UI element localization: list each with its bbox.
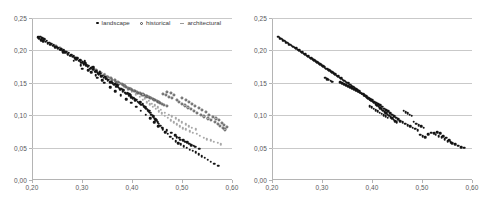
data-point [90,71,93,74]
y-axis-tick-label: 0,20 [14,47,27,54]
data-point [171,137,174,140]
y-axis-tick-label: 0,05 [254,144,267,151]
y-axis-tick-label: 0,20 [254,47,267,54]
left-plot-area: 0,000,050,100,150,200,250,200,300,400,50… [32,18,232,180]
data-point [81,67,84,70]
data-point [410,115,413,118]
data-point [198,148,201,151]
y-axis-tick-label: 0,25 [254,15,267,22]
data-point [147,100,149,102]
data-point [139,109,142,112]
y-axis-tick [29,18,32,19]
x-axis-tick [422,180,423,183]
data-point [187,125,189,127]
y-axis-tick-label: 0,10 [14,112,27,119]
data-point [184,141,187,144]
data-point [125,98,128,101]
data-point [161,126,164,129]
data-point [98,71,101,74]
y-axis-tick [269,50,272,51]
data-point [148,109,151,112]
x-axis-tick [322,180,323,183]
x-axis-tick-label: 0,50 [175,184,188,191]
y-axis-tick [29,115,32,116]
gridline [272,115,472,116]
data-point [152,115,155,118]
right-chart-panel: average quality aggregate index 0,000,05… [240,0,480,204]
y-axis-tick [269,148,272,149]
gridline [32,148,232,149]
x-axis-tick [132,180,133,183]
data-point [195,133,197,135]
data-point [216,142,218,144]
data-point [209,139,211,141]
data-point [194,128,196,130]
data-point [386,116,389,119]
data-point [157,125,160,128]
data-point [213,163,216,166]
y-axis-tick-label: 0,00 [254,177,267,184]
data-point [223,128,226,131]
data-point [424,136,427,139]
y-axis-tick [269,83,272,84]
x-axis-tick-label: 0,30 [75,184,88,191]
data-point [135,106,138,109]
data-point [114,90,117,93]
data-point [192,144,195,147]
x-axis-tick-label: 0,40 [125,184,138,191]
data-point [62,51,65,54]
data-point [166,117,168,119]
scatter-plot-figure: landscape historical architectural 0,000… [0,0,481,204]
data-point [160,112,162,114]
data-point [331,80,334,83]
x-axis-tick-label: 0,50 [415,184,428,191]
data-point [181,127,183,129]
data-point [209,161,212,164]
data-point [170,97,173,100]
data-point [217,164,220,167]
x-axis-tick-label: 0,20 [265,184,278,191]
data-point [103,82,106,85]
gridline [272,18,472,19]
data-point [72,60,75,63]
x-axis-tick [32,180,33,183]
data-point [416,129,419,132]
data-point [188,130,190,132]
x-axis-tick-label: 0,30 [315,184,328,191]
x-axis-tick [272,180,273,183]
data-point [149,117,152,120]
data-point [395,121,398,124]
data-point [101,79,104,82]
data-point [96,76,99,79]
x-axis-tick [472,180,473,183]
y-axis-tick [269,18,272,19]
data-point [185,128,187,130]
x-axis-tick-label: 0,40 [365,184,378,191]
data-point [160,109,162,111]
y-axis-tick-label: 0,25 [14,15,27,22]
x-axis-tick [182,180,183,183]
data-point [192,131,194,133]
data-point [206,138,208,140]
data-point [164,111,166,113]
x-axis-tick [232,180,233,183]
data-point [181,121,183,123]
data-point [157,106,159,108]
data-point [94,74,97,77]
y-axis-tick [29,83,32,84]
data-point [463,146,466,149]
data-point [110,82,113,85]
data-point [104,77,107,80]
left-y-axis [32,18,33,180]
right-plot-area: 0,000,050,100,150,200,250,200,300,400,50… [272,18,472,180]
gridline [272,148,472,149]
y-axis-tick-label: 0,00 [14,177,27,184]
data-point [225,125,228,128]
x-axis-tick-label: 0,20 [25,184,38,191]
data-point [116,84,119,87]
data-point [220,143,222,145]
data-point [188,142,191,145]
data-point [191,126,193,128]
left-chart-panel: landscape historical architectural 0,000… [0,0,240,204]
y-axis-tick-label: 0,15 [14,79,27,86]
